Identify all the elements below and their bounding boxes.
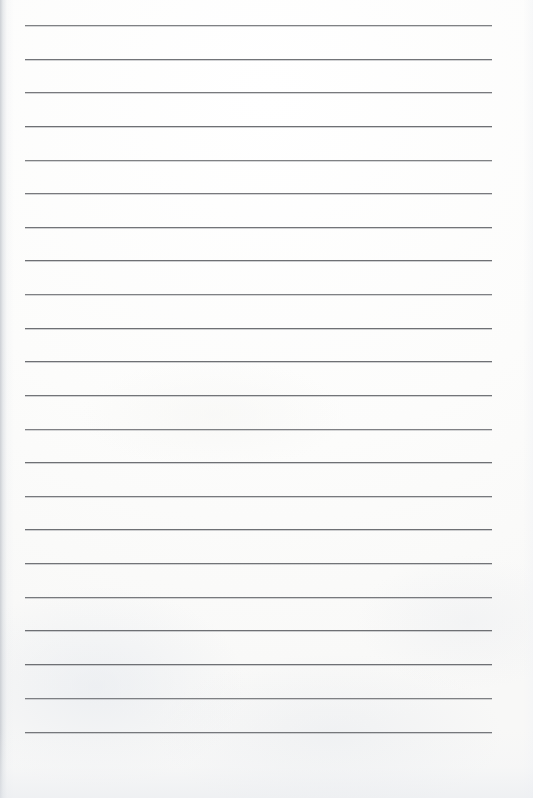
ruled-line xyxy=(25,664,492,665)
ruled-line xyxy=(25,563,492,564)
ruled-line xyxy=(25,732,492,733)
ruled-line xyxy=(25,361,492,362)
ruled-line xyxy=(25,59,492,60)
scanned-page xyxy=(0,0,533,798)
ruled-line xyxy=(25,698,492,699)
ruled-line xyxy=(25,395,492,396)
ruled-line xyxy=(25,529,492,530)
ruled-line xyxy=(25,630,492,631)
ruled-line xyxy=(25,462,492,463)
ruled-line xyxy=(25,597,492,598)
ruled-line xyxy=(25,429,492,430)
ruled-line xyxy=(25,126,492,127)
ruled-line xyxy=(25,25,492,26)
ruled-line xyxy=(25,92,492,93)
ruled-line xyxy=(25,160,492,161)
ruled-lines-group xyxy=(0,0,533,798)
ruled-line xyxy=(25,227,492,228)
ruled-line xyxy=(25,328,492,329)
ruled-line xyxy=(25,496,492,497)
ruled-line xyxy=(25,260,492,261)
ruled-line xyxy=(25,193,492,194)
ruled-line xyxy=(25,294,492,295)
